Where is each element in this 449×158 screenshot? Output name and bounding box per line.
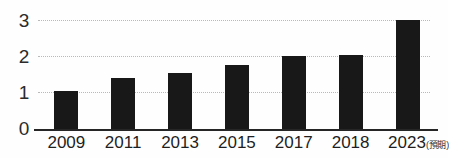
x-axis-label-2015: 2015 xyxy=(218,133,256,152)
x-axis-label-2011: 2011 xyxy=(105,133,142,152)
x-axis-label-text: 2023 xyxy=(388,133,426,152)
bar-2011 xyxy=(111,78,135,129)
bar-2018 xyxy=(339,55,363,129)
bar-2023 xyxy=(396,20,420,129)
x-axis-line xyxy=(34,129,438,131)
x-axis-label-text: 2018 xyxy=(332,133,370,152)
bar-2017 xyxy=(282,56,306,129)
x-axis-label-note: (預期) xyxy=(426,140,449,150)
x-axis-label-text: 2009 xyxy=(47,133,85,152)
x-axis-label-text: 2017 xyxy=(275,133,313,152)
bar-2009 xyxy=(54,91,78,129)
x-axis-label-text: 2013 xyxy=(161,133,199,152)
x-axis-label-text: 2015 xyxy=(218,133,256,152)
bar-2013 xyxy=(168,73,192,129)
x-axis-label-2023: 2023(預期) xyxy=(388,133,449,155)
x-axis-label-2009: 2009 xyxy=(47,133,85,152)
x-axis-label-2018: 2018 xyxy=(332,133,370,152)
x-axis-label-2013: 2013 xyxy=(161,133,199,152)
bar-2015 xyxy=(225,65,249,129)
x-axis-label-2017: 2017 xyxy=(275,133,313,152)
x-axis-label-text: 2011 xyxy=(105,133,142,152)
